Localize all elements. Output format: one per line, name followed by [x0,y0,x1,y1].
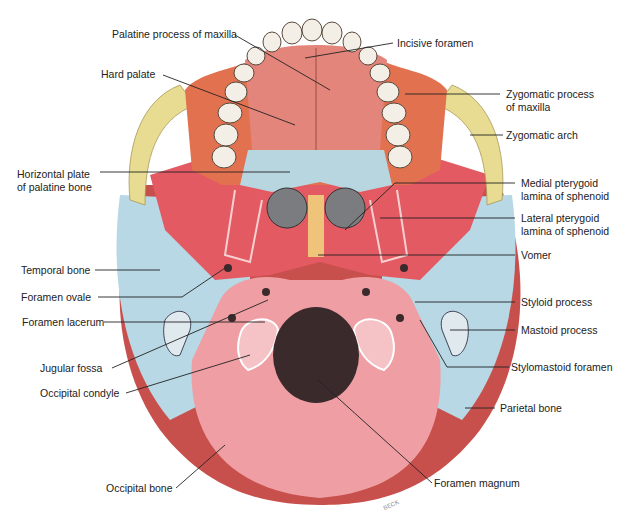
vomer-shape [308,195,324,257]
label-mastoid-process: Mastoid process [521,324,597,337]
label-occipital-bone: Occipital bone [106,482,173,495]
label-jugular-fossa: Jugular fossa [40,362,102,375]
label-vomer: Vomer [521,249,551,262]
label-lateral-pterygoid-line1: Lateral pterygoid [521,212,599,225]
skull-base-illustration [0,0,632,525]
label-zygomatic-arch: Zygomatic arch [506,129,578,142]
label-foramen-lacerum: Foramen lacerum [22,316,104,329]
label-foramen-ovale: Foramen ovale [21,291,91,304]
label-medial-pterygoid-line2: lamina of sphenoid [521,190,609,203]
label-stylomastoid-foramen: Stylomastoid foramen [511,361,613,374]
label-zygomatic-process-line2: of maxilla [506,101,550,114]
label-foramen-magnum: Foramen magnum [434,477,520,490]
label-occipital-condyle: Occipital condyle [40,387,119,400]
label-lateral-pterygoid-line2: lamina of sphenoid [521,225,609,238]
choana-left [267,188,307,228]
label-horizontal-plate-line1: Horizontal plate [17,168,90,181]
label-hard-palate: Hard palate [101,68,155,81]
label-styloid-process: Styloid process [521,296,592,309]
foramen-magnum-shape [273,307,359,403]
label-medial-pterygoid-line1: Medial pterygoid [521,177,598,190]
label-palatine-process-of-maxilla: Palatine process of maxilla [112,28,237,41]
label-incisive-foramen: Incisive foramen [397,37,473,50]
label-temporal-bone: Temporal bone [21,264,90,277]
label-parietal-bone: Parietal bone [500,402,562,415]
label-zygomatic-process-line1: Zygomatic process [506,88,594,101]
choana-right [325,188,365,228]
label-horizontal-plate-line2: of palatine bone [17,181,92,194]
